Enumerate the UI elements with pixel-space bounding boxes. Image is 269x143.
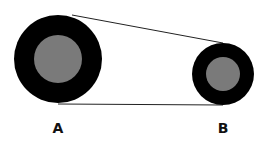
belt-bottom — [58, 104, 223, 105]
pulley-b — [192, 43, 254, 105]
label-a: A — [53, 120, 64, 136]
pulley-b-inner — [206, 57, 240, 91]
pulley-a — [14, 15, 102, 103]
pulley-a-inner — [34, 35, 82, 83]
label-b: B — [218, 120, 229, 136]
pulley-diagram: A B — [0, 0, 269, 143]
